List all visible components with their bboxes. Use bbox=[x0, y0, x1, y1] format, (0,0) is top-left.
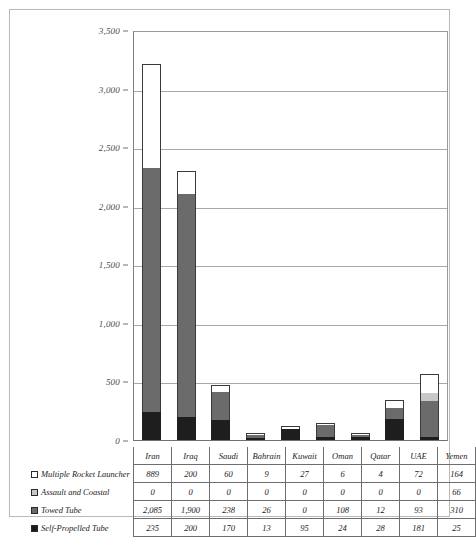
stacked-bar-qatar[interactable] bbox=[351, 433, 370, 440]
y-axis-tick-mark bbox=[123, 148, 128, 149]
bar-segment-multiple-rocket-launcher bbox=[385, 400, 404, 408]
table-cell: 0 bbox=[248, 483, 286, 501]
legend-swatch-icon bbox=[31, 471, 38, 478]
table-row: Multiple Rocket Launcher8892006092764721… bbox=[28, 465, 476, 483]
y-axis-tick-label: 2,000 bbox=[99, 202, 120, 212]
column-header-saudi: Saudi bbox=[210, 447, 248, 465]
y-axis-tick-mark bbox=[123, 441, 128, 442]
bar-slot-kuwait bbox=[273, 32, 308, 440]
bar-slot-bahrain bbox=[238, 32, 273, 440]
bar-segment-self-propelled-tube bbox=[246, 438, 265, 440]
data-table: IranIraqSaudiBahrainKuwaitOmanQatarUAEYe… bbox=[28, 447, 476, 537]
table-cell: 95 bbox=[286, 519, 324, 537]
bar-segment-towed-tube bbox=[385, 408, 404, 419]
bar-segment-multiple-rocket-launcher bbox=[211, 385, 230, 392]
bar-segment-self-propelled-tube bbox=[385, 419, 404, 440]
bar-segment-multiple-rocket-launcher bbox=[177, 171, 196, 194]
stacked-bar-oman[interactable] bbox=[316, 423, 335, 440]
bar-segment-assault-and-coastal bbox=[420, 393, 439, 401]
table-cell: 0 bbox=[286, 483, 324, 501]
table-cell: 310 bbox=[438, 501, 476, 519]
bar-segment-self-propelled-tube bbox=[420, 437, 439, 440]
bar-segment-self-propelled-tube bbox=[211, 420, 230, 440]
table-row: Self-Propelled Tube235200170139524281812… bbox=[28, 519, 476, 537]
stacked-bar-bahrain[interactable] bbox=[246, 433, 265, 440]
legend-swatch-icon bbox=[31, 489, 38, 496]
legend-label: Self-Propelled Tube bbox=[41, 523, 108, 533]
y-axis-tick-label: 3,500 bbox=[99, 26, 120, 36]
legend-entry-towed-tube[interactable]: Towed Tube bbox=[28, 501, 134, 519]
column-header-bahrain: Bahrain bbox=[248, 447, 286, 465]
table-cell: 93 bbox=[400, 501, 438, 519]
y-axis-tick-label: 0 bbox=[115, 436, 120, 446]
table-cell: 4 bbox=[362, 465, 400, 483]
column-header-yemen: Yemen bbox=[438, 447, 476, 465]
table-row: Assault and Coastal0000000066 bbox=[28, 483, 476, 501]
table-cell: 72 bbox=[400, 465, 438, 483]
stacked-bar-iraq[interactable] bbox=[177, 171, 196, 440]
table-row: Towed Tube2,0851,9002382601081293310 bbox=[28, 501, 476, 519]
table-cell: 13 bbox=[248, 519, 286, 537]
stacked-bar-saudi[interactable] bbox=[211, 385, 230, 440]
outer-frame: 05001,0001,5002,0002,5003,0003,500 IranI… bbox=[9, 9, 450, 517]
table-cell: 181 bbox=[400, 519, 438, 537]
stacked-bar-iran[interactable] bbox=[142, 64, 161, 440]
bar-segment-self-propelled-tube bbox=[351, 437, 370, 440]
table-cell: 0 bbox=[400, 483, 438, 501]
column-header-oman: Oman bbox=[324, 447, 362, 465]
plot-area bbox=[133, 31, 448, 441]
legend-label: Multiple Rocket Launcher bbox=[41, 469, 130, 479]
bar-segment-self-propelled-tube bbox=[177, 417, 196, 440]
column-header-iran: Iran bbox=[134, 447, 172, 465]
y-axis-tick-mark bbox=[123, 323, 128, 324]
table-cell: 0 bbox=[286, 501, 324, 519]
legend-label: Assault and Coastal bbox=[41, 487, 109, 497]
stacked-bar-yemen[interactable] bbox=[420, 374, 439, 440]
legend-entry-multiple-rocket-launcher[interactable]: Multiple Rocket Launcher bbox=[28, 465, 134, 483]
stacked-bar-kuwait[interactable] bbox=[281, 426, 300, 440]
y-axis-tick-mark bbox=[123, 265, 128, 266]
y-axis-tick-label: 1,000 bbox=[99, 319, 120, 329]
plot-wrapper: 05001,0001,5002,0002,5003,0003,500 bbox=[24, 22, 449, 447]
table-cell: 2,085 bbox=[134, 501, 172, 519]
table-cell: 6 bbox=[324, 465, 362, 483]
table-cell: 0 bbox=[210, 483, 248, 501]
table-cell: 24 bbox=[324, 519, 362, 537]
column-header-uae: UAE bbox=[400, 447, 438, 465]
bar-segment-towed-tube bbox=[211, 392, 230, 420]
y-axis-tick-label: 2,500 bbox=[99, 143, 120, 153]
bar-slot-qatar bbox=[343, 32, 378, 440]
table-cell: 108 bbox=[324, 501, 362, 519]
bar-slot-uae bbox=[377, 32, 412, 440]
table-cell: 170 bbox=[210, 519, 248, 537]
table-cell: 25 bbox=[438, 519, 476, 537]
y-axis-tick-mark bbox=[123, 31, 128, 32]
bar-slot-iraq bbox=[169, 32, 204, 440]
y-axis-tick-label: 1,500 bbox=[99, 260, 120, 270]
bar-segment-towed-tube bbox=[177, 194, 196, 417]
table-cell: 0 bbox=[362, 483, 400, 501]
table-cell: 12 bbox=[362, 501, 400, 519]
legend-entry-self-propelled-tube[interactable]: Self-Propelled Tube bbox=[28, 519, 134, 537]
table-cell: 0 bbox=[134, 483, 172, 501]
column-header-kuwait: Kuwait bbox=[286, 447, 324, 465]
y-axis-tick-mark bbox=[123, 382, 128, 383]
legend-swatch-icon bbox=[31, 507, 38, 514]
y-axis-tick-mark bbox=[123, 206, 128, 207]
legend-swatch-icon bbox=[31, 525, 38, 532]
y-axis-tick-label: 3,000 bbox=[99, 85, 120, 95]
bar-slot-oman bbox=[308, 32, 343, 440]
table-cell: 28 bbox=[362, 519, 400, 537]
table-cell: 27 bbox=[286, 465, 324, 483]
bar-segment-towed-tube bbox=[420, 401, 439, 437]
table-cell: 235 bbox=[134, 519, 172, 537]
stacked-bar-uae[interactable] bbox=[385, 400, 404, 441]
table-cell: 238 bbox=[210, 501, 248, 519]
table-cell: 66 bbox=[438, 483, 476, 501]
legend-entry-assault-and-coastal[interactable]: Assault and Coastal bbox=[28, 483, 134, 501]
table-cell: 889 bbox=[134, 465, 172, 483]
bar-segment-multiple-rocket-launcher bbox=[142, 64, 161, 168]
bar-segment-towed-tube bbox=[142, 168, 161, 412]
column-header-iraq: Iraq bbox=[172, 447, 210, 465]
